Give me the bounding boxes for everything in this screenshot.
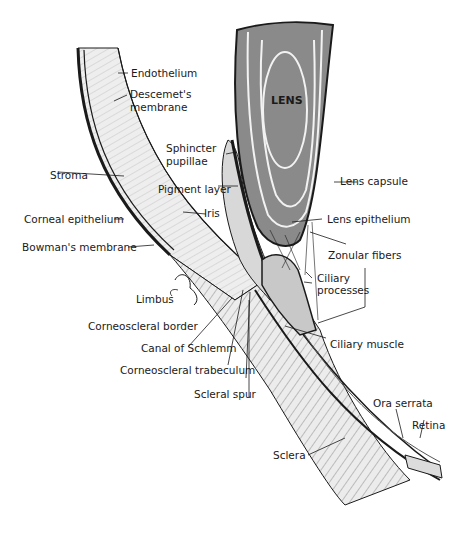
sclera	[170, 255, 442, 505]
label-ciliary-muscle: Ciliary muscle	[330, 338, 404, 350]
label-descemets-line1: Descemet's	[130, 88, 191, 100]
label-sclera: Sclera	[273, 449, 306, 461]
label-ciliary-processes-line2: processes	[317, 284, 369, 296]
lens-label: LENS	[271, 94, 303, 107]
label-pigment-layer: Pigment layer	[158, 183, 231, 195]
label-descemets-line2: membrane	[130, 101, 187, 113]
label-corneoscleral-border: Corneoscleral border	[88, 320, 198, 332]
label-lens-capsule: Lens capsule	[340, 175, 408, 187]
label-canal-of-schlemm: Canal of Schlemm	[141, 342, 237, 354]
lens	[235, 22, 333, 246]
label-lens-epithelium: Lens epithelium	[327, 213, 411, 225]
label-sphincter-line1: Sphincter	[166, 142, 216, 154]
label-iris: Iris	[204, 207, 220, 219]
label-zonular-fibers: Zonular fibers	[328, 249, 401, 261]
label-sphincter-line2: pupillae	[166, 155, 208, 167]
label-stroma: Stroma	[50, 169, 88, 181]
label-bowmans-membrane: Bowman's membrane	[22, 241, 137, 253]
label-corneal-epithelium: Corneal epithelium	[24, 213, 124, 225]
eye-anatomy-diagram	[0, 0, 462, 535]
label-retina: Retina	[412, 419, 445, 431]
label-ciliary-processes-line1: Ciliary	[317, 272, 350, 284]
label-endothelium: Endothelium	[131, 67, 197, 79]
label-corneoscleral-trabeculum: Corneoscleral trabeculum	[120, 364, 255, 376]
label-ora-serrata: Ora serrata	[373, 397, 433, 409]
label-limbus: Limbus	[136, 293, 174, 305]
label-scleral-spur: Scleral spur	[194, 388, 256, 400]
